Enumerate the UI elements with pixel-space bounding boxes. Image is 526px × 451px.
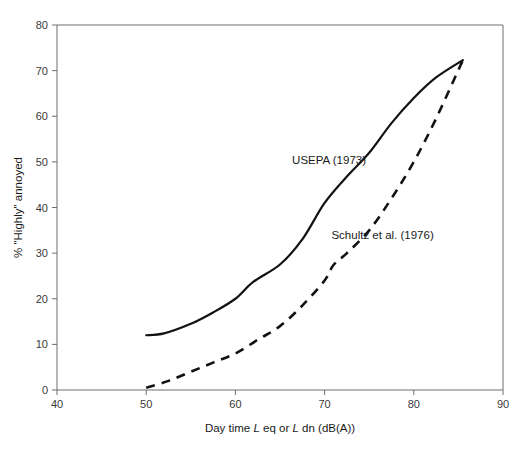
x-axis-title-text: eq or <box>260 422 293 434</box>
x-axis-title-text: dn (dB(A)) <box>299 422 355 434</box>
x-axis-title-text: Day time <box>205 422 254 434</box>
x-tick-label: 50 <box>140 398 152 410</box>
y-tick-label: 0 <box>42 384 48 396</box>
series-label: Schultz et al. (1976) <box>331 229 433 241</box>
y-tick-label: 70 <box>36 65 48 77</box>
figure-background <box>0 0 526 451</box>
x-tick-label: 70 <box>318 398 330 410</box>
series-label: USEPA (1973) <box>292 154 366 166</box>
y-tick-label: 50 <box>36 156 48 168</box>
y-tick-label: 80 <box>36 19 48 31</box>
x-tick-label: 60 <box>229 398 241 410</box>
y-tick-label: 60 <box>36 110 48 122</box>
y-tick-label: 40 <box>36 202 48 214</box>
x-tick-label: 40 <box>51 398 63 410</box>
y-axis-title: % "Highly" annoyed <box>12 157 24 258</box>
chart-figure: 40506070809001020304050607080% "Highly" … <box>0 0 526 451</box>
y-tick-label: 30 <box>36 247 48 259</box>
x-axis-title: Day time L eq or L dn (dB(A)) <box>205 422 355 434</box>
y-tick-label: 20 <box>36 293 48 305</box>
x-tick-label: 90 <box>497 398 509 410</box>
y-tick-label: 10 <box>36 338 48 350</box>
x-tick-label: 80 <box>408 398 420 410</box>
